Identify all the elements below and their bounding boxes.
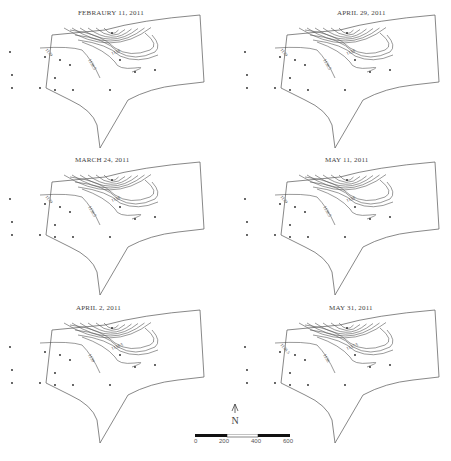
contour-line [331,323,360,330]
contour-label: 1138 [346,48,357,56]
well-point [246,87,248,89]
well-point [109,236,111,238]
well-point [154,69,156,71]
well-point [289,89,291,91]
well-point [69,359,71,361]
scale-tick-200: 200 [219,438,229,444]
well-point [304,359,306,361]
contour-label: 1139 [279,47,289,58]
well-point [59,354,61,356]
panel-feb11: FEBRAURY 11, 201111381138.51139 [0,0,225,148]
well-point [389,364,391,366]
well-point [39,87,41,89]
contour-label: 1138.5 [322,205,333,219]
well-point [11,74,13,76]
well-point [369,71,371,73]
well-point [9,346,11,348]
site-boundary [281,15,439,148]
well-point [344,236,346,238]
site-boundary [46,310,204,443]
well-point [11,234,13,236]
well-point [369,218,371,220]
well-point [274,382,276,384]
contour-line [331,28,360,35]
well-point [72,384,74,386]
well-point [354,59,356,61]
well-point [294,59,296,61]
well-point [72,236,74,238]
well-point [154,364,156,366]
well-point [344,89,346,91]
well-point [246,382,248,384]
well-point [369,366,371,368]
well-point [109,384,111,386]
well-point [307,236,309,238]
well-point [354,354,356,356]
well-point [289,77,291,79]
well-point [9,198,11,200]
contour-map: 11381138.51139 [0,147,225,295]
well-point [111,179,113,181]
panel-apr29: APRIL 29, 201111381138.51139 [225,0,450,148]
well-point [389,216,391,218]
well-point [244,198,246,200]
well-point [44,203,46,205]
well-point [289,372,291,374]
contour-map: 1138.51139 [0,295,225,443]
panel-may31: MAY 31, 20111137.511381138.5 [225,295,450,443]
well-point [274,87,276,89]
contour-label: 1139 [44,194,54,205]
well-point [44,56,46,58]
well-point [72,89,74,91]
well-point [44,351,46,353]
contour-map: 11381138.51139 [225,0,450,148]
contour-label: 1138.5 [322,58,333,72]
well-point [54,77,56,79]
scale-segment-2 [227,434,258,437]
well-point [307,89,309,91]
contour-map: 1137.511381138.5 [225,295,450,443]
well-point [54,224,56,226]
well-point [54,89,56,91]
well-point [59,206,61,208]
well-point [304,64,306,66]
well-point [346,327,348,329]
well-point [346,179,348,181]
well-point [246,74,248,76]
north-label: N [231,415,238,426]
well-point [134,71,136,73]
well-point [154,216,156,218]
well-point [246,369,248,371]
well-point [304,211,306,213]
well-point [54,384,56,386]
scale-segment-1 [195,434,227,437]
contour-label: 1138.5 [279,342,291,355]
well-point [119,206,121,208]
well-point [134,218,136,220]
panel-mar24: MARCH 24, 201111381138.51139 [0,147,225,295]
well-point [294,354,296,356]
well-point [354,206,356,208]
well-point [69,211,71,213]
well-point [111,327,113,329]
well-point [289,384,291,386]
well-point [279,203,281,205]
well-point [289,236,291,238]
well-point [54,236,56,238]
panel-may11: MAY 11, 201111381138.51139 [225,147,450,295]
contour-label: 1138.5 [87,205,98,219]
contour-line [331,175,360,182]
contour-label: 1138 [346,195,357,203]
well-point [134,366,136,368]
contour-label: 1139 [44,47,54,58]
well-point [279,351,281,353]
well-point [246,221,248,223]
well-point [54,372,56,374]
contour-label: 1138 [111,48,122,56]
site-boundary [46,162,204,295]
well-point [39,382,41,384]
well-point [344,384,346,386]
site-boundary [281,162,439,295]
well-point [111,32,113,34]
contour-line [96,175,125,182]
